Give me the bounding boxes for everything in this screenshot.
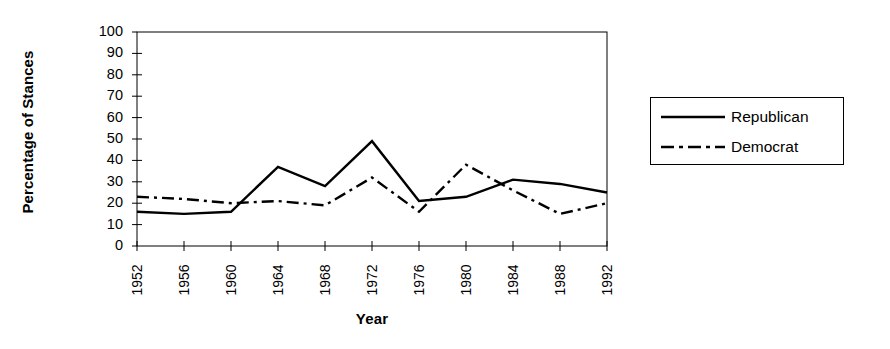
x-tick-label-text: 1976	[412, 264, 426, 295]
legend-item-republican: Republican	[651, 103, 843, 131]
x-axis-title: Year	[137, 310, 607, 327]
x-tick-label-text: 1964	[271, 264, 285, 295]
x-tick-label-text: 1952	[130, 264, 144, 295]
x-tick-label-text: 1972	[365, 264, 379, 295]
legend-swatch-dashdot-line	[660, 140, 726, 154]
legend-swatch-solid-line	[660, 110, 726, 124]
x-tick-label-text: 1956	[177, 264, 191, 295]
x-tick-label: 1960	[223, 254, 239, 306]
line-chart: Percentage of Stances 010203040506070809…	[0, 0, 890, 349]
x-tick-label: 1984	[505, 254, 521, 306]
x-tick-label: 1992	[599, 254, 615, 306]
x-tick-label: 1968	[317, 254, 333, 306]
x-tick-label-text: 1980	[459, 264, 473, 295]
x-tick-label-text: 1960	[224, 264, 238, 295]
data-series	[137, 141, 607, 214]
x-tick-label-text: 1988	[553, 264, 567, 295]
legend-label-democrat: Democrat	[731, 139, 798, 155]
legend: Republican Democrat	[650, 97, 844, 165]
x-tick-label-text: 1984	[506, 264, 520, 295]
x-tick-label: 1972	[364, 254, 380, 306]
x-tick-label: 1976	[411, 254, 427, 306]
x-tick-label: 1956	[176, 254, 192, 306]
legend-item-democrat: Democrat	[651, 133, 843, 161]
x-tick-label: 1980	[458, 254, 474, 306]
x-tick-label: 1988	[552, 254, 568, 306]
x-tick-label: 1964	[270, 254, 286, 306]
axes	[132, 32, 607, 251]
x-tick-label-text: 1992	[600, 264, 614, 295]
legend-label-republican: Republican	[731, 109, 809, 125]
x-tick-label-text: 1968	[318, 264, 332, 295]
series-line-democrat	[137, 165, 607, 214]
x-tick-label: 1952	[129, 254, 145, 306]
